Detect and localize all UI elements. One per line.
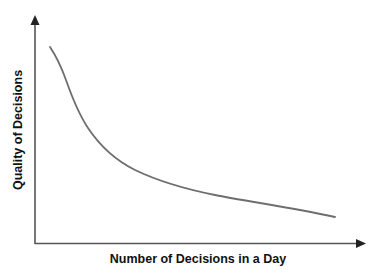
decision-quality-curve (50, 47, 335, 217)
x-axis-label: Number of Decisions in a Day (110, 252, 286, 266)
y-axis-label: Quality of Decisions (11, 70, 25, 190)
x-axis-arrow-icon (356, 239, 366, 248)
y-axis-arrow-icon (31, 15, 40, 25)
chart: Number of Decisions in a Day Quality of … (0, 0, 381, 273)
